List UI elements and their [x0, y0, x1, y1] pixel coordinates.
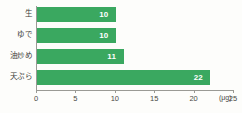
x-axis-unit-label: (μg) [219, 94, 232, 101]
x-tick [154, 90, 155, 93]
bar-row: ゆで 10 [36, 27, 236, 48]
bar-value-0: 10 [97, 7, 111, 22]
bar-value-1: 10 [97, 28, 111, 43]
x-tick [36, 90, 37, 93]
x-tick-label: 15 [150, 94, 158, 103]
x-tick [75, 90, 76, 93]
bar-value-2: 11 [105, 49, 119, 64]
category-label-2: 油炒め [10, 48, 32, 64]
bar-value-3: 22 [191, 70, 205, 85]
x-tick-label: 0 [34, 94, 38, 103]
category-label-0: 生 [25, 6, 32, 22]
x-tick-label: 5 [73, 94, 77, 103]
x-tick [115, 90, 116, 93]
x-tick-label: 20 [189, 94, 197, 103]
bar-3 [37, 70, 210, 85]
x-tick [233, 90, 234, 93]
plot-area: 生 10 ゆで 10 油炒め 11 天ぷら 22 [36, 6, 236, 90]
x-tick [194, 90, 195, 93]
bar-row: 生 10 [36, 6, 236, 27]
category-label-1: ゆで [17, 27, 32, 43]
bar-row: 天ぷら 22 [36, 69, 236, 90]
x-axis-line [36, 90, 233, 91]
category-label-3: 天ぷら [10, 69, 32, 85]
bar-row: 油炒め 11 [36, 48, 236, 69]
x-tick-label: 10 [111, 94, 119, 103]
bar-chart: 生 10 ゆで 10 油炒め 11 天ぷら 22 0510152025 (μg) [0, 0, 242, 113]
